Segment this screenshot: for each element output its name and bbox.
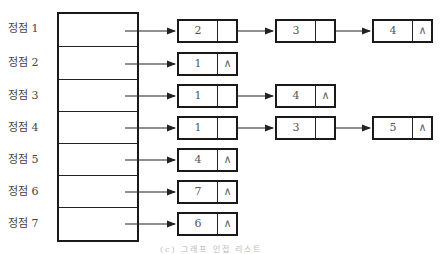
list-node: 6 ∧ (177, 212, 238, 236)
node-value: 3 (277, 118, 316, 138)
node-pointer (219, 86, 236, 106)
node-value: 5 (374, 118, 413, 138)
node-pointer (219, 21, 236, 41)
node-value: 3 (277, 21, 316, 41)
node-value: 6 (179, 214, 218, 234)
node-value: 7 (179, 182, 218, 202)
node-value: 4 (179, 150, 218, 170)
null-pointer-icon: ∧ (317, 86, 334, 106)
list-node: 4 ∧ (372, 19, 433, 43)
node-pointer (219, 118, 236, 138)
list-node: 4 ∧ (177, 148, 238, 172)
list-node: 7 ∧ (177, 180, 238, 204)
node-value: 2 (179, 21, 218, 41)
node-pointer (317, 21, 334, 41)
list-node: 5 ∧ (372, 116, 433, 140)
null-pointer-icon: ∧ (219, 182, 236, 202)
list-node: 1 (177, 84, 238, 108)
null-pointer-icon: ∧ (219, 150, 236, 170)
node-pointer (317, 118, 334, 138)
null-pointer-icon: ∧ (414, 118, 431, 138)
node-value: 4 (277, 86, 316, 106)
null-pointer-icon: ∧ (219, 214, 236, 234)
null-pointer-icon: ∧ (414, 21, 431, 41)
list-node: 1 (177, 116, 238, 140)
node-value: 1 (179, 54, 218, 74)
node-value: 1 (179, 86, 218, 106)
list-node: 3 (275, 116, 336, 140)
list-node: 1 ∧ (177, 52, 238, 76)
list-node: 4 ∧ (275, 84, 336, 108)
node-value: 4 (374, 21, 413, 41)
figure-caption: (c) 그래프 인접 리스트 (160, 243, 262, 254)
null-pointer-icon: ∧ (219, 54, 236, 74)
list-node: 2 (177, 19, 238, 43)
node-value: 1 (179, 118, 218, 138)
list-node: 3 (275, 19, 336, 43)
